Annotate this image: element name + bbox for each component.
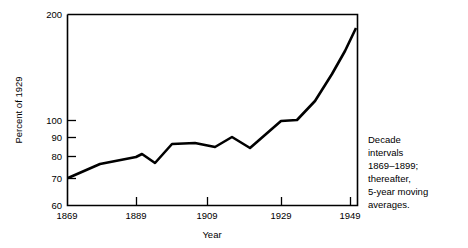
plot-frame [68, 15, 358, 206]
line-chart: 200 100 90 80 70 60 1869 1889 1909 1929 … [0, 0, 468, 248]
annotation-line-3: 1869–1899; [368, 160, 418, 171]
xtick-label-1929: 1929 [270, 210, 291, 221]
ytick-label-70: 70 [51, 173, 62, 184]
ytick-label-100: 100 [46, 115, 62, 126]
data-series-line [68, 28, 356, 178]
xtick-label-1909: 1909 [196, 210, 217, 221]
ytick-label-90: 90 [51, 132, 62, 143]
y-axis-title: Percent of 1929 [13, 76, 24, 143]
xtick-label-1949: 1949 [339, 210, 360, 221]
annotation-line-5: 5-year moving [368, 186, 428, 197]
annotation-line-4: thereafter, [368, 173, 411, 184]
xtick-label-1889: 1889 [125, 210, 146, 221]
annotation-line-6: averages. [368, 199, 410, 210]
ytick-label-200: 200 [46, 9, 62, 20]
annotation-line-2: intervals [368, 147, 404, 158]
ytick-label-80: 80 [51, 151, 62, 162]
chart-page: 200 100 90 80 70 60 1869 1889 1909 1929 … [0, 0, 468, 248]
x-axis-title: Year [202, 229, 221, 240]
xtick-label-1869: 1869 [56, 210, 77, 221]
annotation-line-1: Decade [368, 134, 401, 145]
